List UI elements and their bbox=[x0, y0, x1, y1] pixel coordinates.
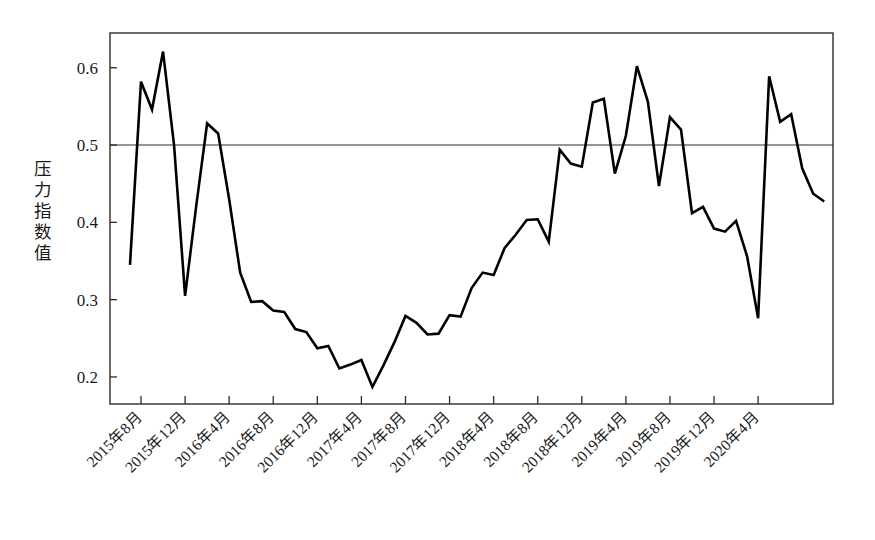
y-tick-label: 0.4 bbox=[77, 213, 99, 232]
line-chart: 0.20.30.40.50.6 2015年8月2015年12月2016年4月20… bbox=[0, 0, 875, 540]
y-tick-label: 0.5 bbox=[77, 136, 98, 155]
x-axis-ticks: 2015年8月2015年12月2016年4月2016年8月2016年12月201… bbox=[83, 396, 762, 476]
y-axis-title-char: 压 bbox=[34, 159, 51, 179]
y-axis-title: 压力指数值 bbox=[34, 159, 51, 263]
y-tick-label: 0.3 bbox=[77, 291, 98, 310]
y-axis-title-char: 数 bbox=[34, 222, 51, 242]
data-series-line bbox=[130, 52, 824, 387]
y-tick-label: 0.6 bbox=[77, 59, 98, 78]
y-axis-title-char: 指 bbox=[34, 201, 51, 221]
chart-figure: 0.20.30.40.50.6 2015年8月2015年12月2016年4月20… bbox=[0, 0, 875, 540]
y-axis-ticks: 0.20.30.40.50.6 bbox=[77, 59, 117, 387]
y-axis-title-char: 值 bbox=[34, 243, 51, 263]
y-tick-label: 0.2 bbox=[77, 368, 98, 387]
y-axis-title-char: 力 bbox=[34, 180, 51, 200]
plot-frame bbox=[110, 33, 833, 404]
